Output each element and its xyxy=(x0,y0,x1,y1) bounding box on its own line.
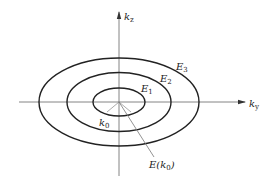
k-space-diagram: kz ky E3 E2 E1 k0 E(k0) xyxy=(0,0,270,185)
ky-axis-label: ky xyxy=(249,98,259,111)
e-k0-leader-line xyxy=(119,102,154,157)
k0-leader-line-right xyxy=(119,102,131,112)
e1-label: E1 xyxy=(140,83,153,96)
k0-leader-line xyxy=(107,102,119,112)
kz-axis-label: kz xyxy=(124,11,134,24)
e-k0-label: E(k0) xyxy=(148,159,175,172)
k0-label: k0 xyxy=(99,117,110,130)
